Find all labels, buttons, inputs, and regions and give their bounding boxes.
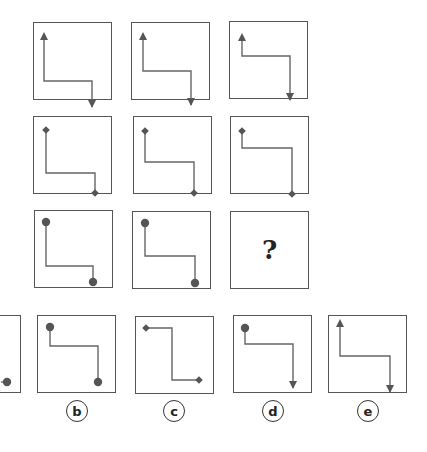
grid-cell-r1c1 [33, 22, 112, 100]
start-arrow-up-icon [336, 319, 344, 327]
option-label-d[interactable]: d [262, 400, 284, 422]
z-path-line [242, 131, 292, 194]
z-path-line [242, 40, 290, 100]
option-a[interactable] [0, 315, 21, 393]
option-label-c[interactable]: c [163, 400, 185, 422]
end-diamond-marker [195, 376, 203, 384]
end-dot-marker [94, 378, 102, 386]
z-path-line [143, 39, 191, 105]
start-diamond-marker [141, 127, 149, 135]
start-diamond-marker [42, 126, 50, 134]
end-arrow-down-icon [289, 381, 297, 389]
option-label-e[interactable]: e [357, 400, 379, 422]
end-diamond-marker [288, 190, 296, 198]
z-path-figure [35, 211, 112, 287]
start-diamond-marker [238, 127, 246, 135]
option-d[interactable] [233, 315, 312, 393]
z-path-figure [136, 317, 213, 393]
z-path-figure [34, 23, 111, 99]
start-diamond-marker [142, 324, 150, 332]
end-arrow-down-icon [187, 98, 195, 106]
z-path-line [46, 130, 95, 193]
end-arrow-down-icon [386, 385, 394, 393]
end-arrow-down-icon [286, 93, 294, 101]
z-path-line [46, 222, 93, 282]
z-path-figure [0, 316, 20, 392]
end-diamond-marker [190, 189, 198, 197]
z-path-line [50, 327, 98, 382]
z-path-figure [329, 316, 406, 392]
grid-cell-missing: ? [230, 211, 309, 289]
z-path-line [146, 328, 199, 380]
start-dot-marker [42, 218, 50, 226]
grid-cell-r3c2 [132, 211, 211, 289]
end-dot-marker [89, 278, 97, 286]
end-diamond-marker [91, 189, 99, 197]
z-path-figure [231, 117, 308, 193]
grid-cell-r1c2 [131, 22, 210, 100]
question-mark: ? [231, 212, 308, 288]
end-dot-marker [3, 378, 11, 386]
z-path-line [145, 131, 194, 193]
start-dot-marker [241, 324, 249, 332]
option-b[interactable] [37, 315, 116, 393]
grid-cell-r2c1 [33, 116, 112, 194]
start-dot-marker [46, 323, 54, 331]
z-path-line [44, 39, 92, 107]
z-path-figure [133, 212, 210, 288]
z-path-figure [34, 117, 111, 193]
end-arrow-down-icon [88, 100, 96, 108]
option-e[interactable] [328, 315, 407, 393]
z-path-line [340, 326, 390, 392]
start-arrow-up-icon [238, 33, 246, 41]
start-dot-marker [141, 219, 149, 227]
grid-cell-r2c2 [133, 116, 212, 194]
option-label-b[interactable]: b [66, 400, 88, 422]
z-path-figure [230, 22, 307, 98]
option-c[interactable] [135, 316, 214, 394]
z-path-figure [234, 316, 311, 392]
z-path-figure [132, 23, 209, 99]
end-dot-marker [191, 279, 199, 287]
z-path-line [145, 223, 195, 283]
grid-cell-r1c3 [229, 21, 308, 99]
start-arrow-up-icon [40, 32, 48, 40]
z-path-figure [38, 316, 115, 392]
z-path-line [245, 328, 293, 388]
grid-cell-r3c1 [34, 210, 113, 288]
z-path-figure [134, 117, 211, 193]
grid-cell-r2c3 [230, 116, 309, 194]
start-arrow-up-icon [139, 32, 147, 40]
